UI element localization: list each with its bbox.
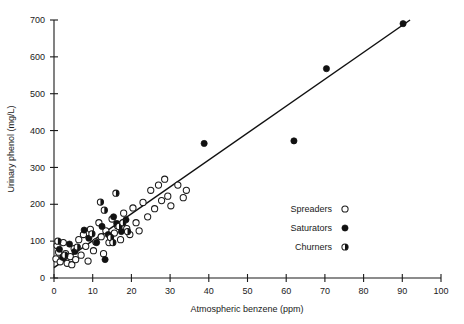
x-tick-label: 80 xyxy=(359,286,369,296)
x-tick-label: 0 xyxy=(51,286,56,296)
data-point-open-circle xyxy=(152,206,158,212)
data-point-open-circle xyxy=(148,187,154,193)
data-point-open-circle xyxy=(121,210,127,216)
data-point-filled-circle xyxy=(66,241,72,247)
x-tick-label: 100 xyxy=(433,286,448,296)
data-point-open-circle xyxy=(117,237,123,243)
data-point-open-circle xyxy=(155,182,161,188)
data-point-filled-circle xyxy=(102,256,108,262)
data-points-layer xyxy=(53,21,406,268)
data-point-half-filled-circle xyxy=(89,231,95,237)
y-axis-title: Urinary phenol (mg/L) xyxy=(6,105,16,192)
y-tick-label: 500 xyxy=(30,89,45,99)
x-tick-label: 30 xyxy=(165,286,175,296)
data-point-half-filled-circle xyxy=(113,190,119,196)
data-point-open-circle xyxy=(175,182,181,188)
data-point-filled-circle xyxy=(99,223,105,229)
data-point-open-circle xyxy=(136,228,142,234)
x-tick-label: 70 xyxy=(320,286,330,296)
data-point-filled-circle xyxy=(93,240,99,246)
data-point-filled-circle xyxy=(201,140,207,146)
y-tick-label: 100 xyxy=(30,236,45,246)
data-point-half-filled-circle xyxy=(97,199,103,205)
data-point-half-filled-circle xyxy=(110,240,116,246)
data-point-open-circle xyxy=(73,256,79,262)
data-point-filled-circle xyxy=(323,66,329,72)
x-tick-label: 60 xyxy=(281,286,291,296)
legend-label-saturators: Saturators xyxy=(290,223,332,233)
data-point-open-circle xyxy=(133,220,139,226)
data-point-open-circle xyxy=(145,214,151,220)
data-point-open-circle xyxy=(83,243,89,249)
legend: SpreadersSaturatorsChurners xyxy=(290,204,348,252)
legend-label-churners: Churners xyxy=(295,242,333,252)
data-point-open-circle xyxy=(90,248,96,254)
data-point-open-circle xyxy=(85,258,91,264)
data-point-open-circle xyxy=(183,187,189,193)
data-point-open-circle xyxy=(78,252,84,258)
y-tick-label: 400 xyxy=(30,126,45,136)
data-point-open-circle xyxy=(100,251,106,257)
x-tick-label: 10 xyxy=(88,286,98,296)
y-tick-label: 600 xyxy=(30,52,45,62)
y-tick-label: 700 xyxy=(30,15,45,25)
y-tick-label: 200 xyxy=(30,199,45,209)
scatter-chart-figure: 0100200300400500600700 01020304050607080… xyxy=(0,0,464,324)
data-point-filled-circle xyxy=(400,21,406,27)
x-tick-label: 50 xyxy=(242,286,252,296)
legend-marker-saturators-filled-circle xyxy=(342,225,348,231)
data-point-half-filled-circle xyxy=(101,207,107,213)
data-point-open-circle xyxy=(165,193,171,199)
data-point-open-circle xyxy=(76,237,82,243)
data-point-filled-circle xyxy=(81,227,87,233)
data-point-half-filled-circle xyxy=(124,228,130,234)
data-point-filled-circle xyxy=(291,138,297,144)
data-point-open-circle xyxy=(130,205,136,211)
data-point-filled-circle xyxy=(56,246,62,252)
data-point-open-circle xyxy=(180,195,186,201)
legend-marker-churners-half-filled-circle xyxy=(342,244,348,250)
x-axis-title: Atmospheric benzene (ppm) xyxy=(190,304,303,314)
data-point-half-filled-circle xyxy=(62,252,68,258)
series-saturators xyxy=(56,21,406,263)
data-point-open-circle xyxy=(98,234,104,240)
data-point-open-circle xyxy=(140,199,146,205)
data-point-filled-circle xyxy=(110,214,116,220)
plot-canvas: 0100200300400500600700 01020304050607080… xyxy=(0,0,464,324)
x-tick-label: 90 xyxy=(397,286,407,296)
x-tick-label: 20 xyxy=(126,286,136,296)
legend-label-spreaders: Spreaders xyxy=(290,204,332,214)
y-tick-label: 300 xyxy=(30,163,45,173)
y-tick-label: 0 xyxy=(40,273,45,283)
data-point-open-circle xyxy=(168,203,174,209)
data-point-open-circle xyxy=(158,198,164,204)
legend-marker-spreaders-open-circle xyxy=(342,206,348,212)
data-point-half-filled-circle xyxy=(74,244,80,250)
x-tick-label: 40 xyxy=(204,286,214,296)
data-point-open-circle xyxy=(162,176,168,182)
x-axis-ticks: 0102030405060708090100 xyxy=(51,274,448,296)
data-point-half-filled-circle xyxy=(120,220,126,226)
data-point-half-filled-circle xyxy=(55,238,61,244)
